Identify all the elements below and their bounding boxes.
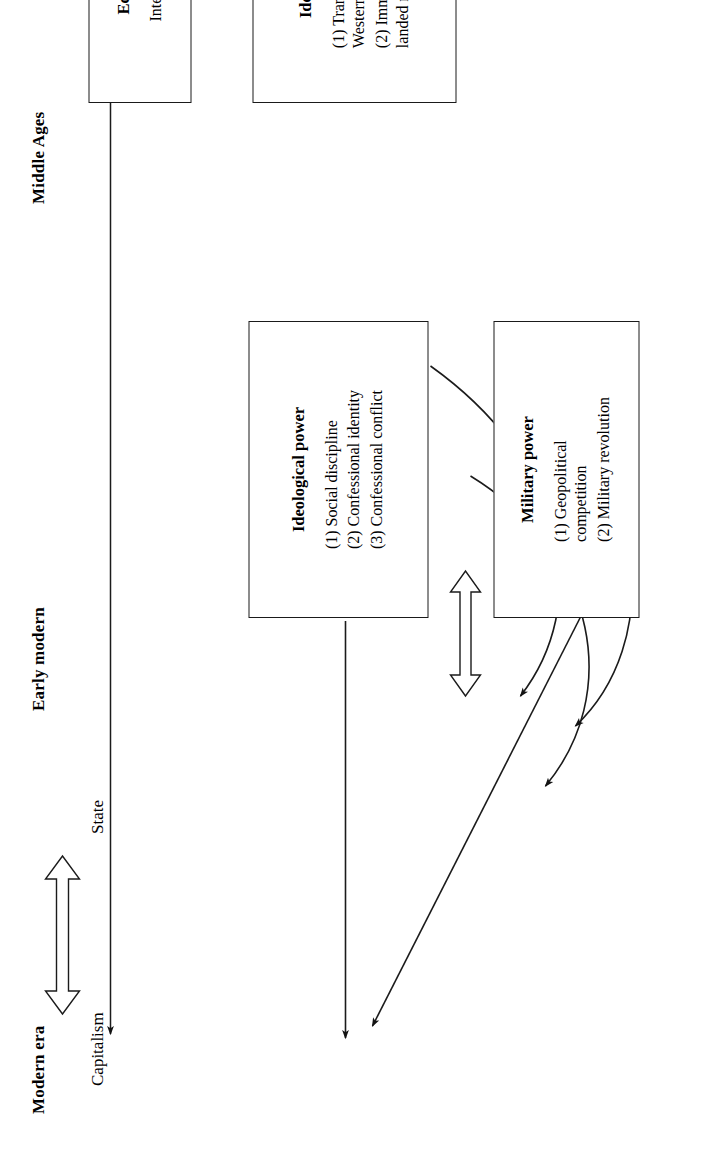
connector-capitalism-state-mutual <box>45 856 79 1014</box>
figure-canvas: Modern era Early modern Middle Ages Capi… <box>0 0 719 1166</box>
box-list-item: (2) Confessional identity <box>344 390 365 549</box>
box-ideological-power-medieval[interactable]: Ideological power (1) Transcendent ideol… <box>252 0 456 103</box>
box-title: Ideological power <box>288 336 309 603</box>
rotated-diagram-wrapper: Modern era Early modern Middle Ages Capi… <box>0 0 719 1166</box>
box-economic-power-medieval[interactable]: Economic power Intensive agriculture <box>88 0 191 103</box>
connector-ideological-military-mutual <box>450 571 480 696</box>
box-content: Military power (1) Geopolitical competit… <box>517 322 614 617</box>
box-item-list: (1) Social discipline (2) Confessional i… <box>321 390 387 549</box>
era-label-early-modern: Early modern <box>28 607 48 711</box>
era-label-modern-era: Modern era <box>28 1026 48 1114</box>
outcome-label-capitalism: Capitalism <box>87 1012 107 1086</box>
box-title: Military power <box>517 336 538 603</box>
box-item-list: (1) Geopolitical competition (2) Militar… <box>550 397 614 542</box>
box-list-item: (1) Social discipline <box>321 390 342 549</box>
box-list-item: (2) Immanent morale of landed nobility <box>371 0 413 48</box>
outcome-label-state: State <box>87 800 107 834</box>
box-military-power-early-modern[interactable]: Military power (1) Geopolitical competit… <box>493 321 639 618</box>
box-body-text: Intensive agriculture <box>145 0 166 88</box>
diagram-content: Modern era Early modern Middle Ages Capi… <box>0 0 719 1166</box>
box-ideological-power-early-modern[interactable]: Ideological power (1) Social discipline … <box>248 321 428 618</box>
box-list-item: (1) Transcendent ideology of Western Chu… <box>328 0 370 48</box>
box-title: Economic power <box>113 0 134 88</box>
box-list-item: (3) Confessional conflict <box>367 390 388 549</box>
box-list-item: (2) Military revolution <box>594 397 615 542</box>
box-content: Ideological power (1) Social discipline … <box>288 322 387 617</box>
era-label-middle-ages: Middle Ages <box>28 112 48 204</box>
box-content: Ideological power (1) Transcendent ideol… <box>295 0 413 102</box>
box-content: Economic power Intensive agriculture <box>113 0 166 102</box>
box-title: Ideological power <box>295 0 316 88</box>
box-list-item: (1) Geopolitical competition <box>550 397 592 542</box>
box-item-list: (1) Transcendent ideology of Western Chu… <box>328 0 413 48</box>
